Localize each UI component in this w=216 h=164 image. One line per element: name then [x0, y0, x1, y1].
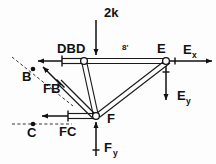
- joint-e: [163, 58, 170, 65]
- label-reaction-fy-base: F: [104, 140, 112, 155]
- joint-d: [81, 58, 88, 65]
- member-df: [82, 61, 99, 116]
- reaction-arrow-ey: [163, 66, 170, 100]
- label-reaction-fy-sub: y: [113, 148, 118, 158]
- label-member-force-db: DB: [57, 41, 76, 56]
- label-reaction-ex-sub: x: [192, 50, 197, 60]
- label-node-c: C: [27, 125, 37, 140]
- joint-f: [93, 113, 100, 120]
- free-body-diagram-canvas: 2k DB FB FC B C D E F 8' E x E y F y: [0, 0, 216, 164]
- label-member-force-fb: FB: [43, 81, 60, 96]
- label-reaction-ey: E y: [177, 88, 191, 106]
- label-node-b: B: [22, 69, 31, 84]
- reaction-arrow-fy: [93, 122, 100, 156]
- label-applied-load: 2k: [104, 5, 119, 20]
- reaction-arrow-ex: [170, 58, 212, 65]
- label-node-d: D: [76, 41, 85, 56]
- label-reaction-ey-base: E: [177, 88, 186, 103]
- label-reaction-ey-sub: y: [186, 96, 191, 106]
- label-dimension-span-de: 8': [122, 43, 128, 52]
- member-stub-fc: [68, 111, 96, 122]
- label-node-f: F: [107, 111, 115, 126]
- fbd-svg: 2k DB FB FC B C D E F 8' E x E y F y: [0, 0, 216, 164]
- label-reaction-ex-base: E: [183, 42, 192, 57]
- label-reaction-ex: E x: [183, 42, 197, 60]
- member-fe: [97, 59, 170, 117]
- member-de: [84, 59, 166, 64]
- label-member-force-fc: FC: [59, 124, 77, 139]
- label-node-e: E: [157, 41, 166, 56]
- label-reaction-fy: F y: [104, 140, 118, 158]
